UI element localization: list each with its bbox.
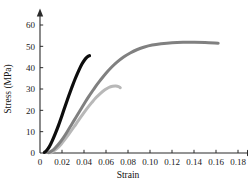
x-tick-label: 0.10 [142, 157, 158, 167]
y-tick-label: 0 [31, 148, 36, 158]
x-tick-label: 0.12 [164, 157, 180, 167]
y-tick-label: 20 [26, 106, 36, 116]
y-tick-label: 50 [26, 42, 36, 52]
x-tick-label: 0.08 [120, 157, 136, 167]
y-tick-label: 40 [26, 63, 36, 73]
x-axis-arrowhead [247, 150, 248, 156]
chart-figure: 00.020.040.060.080.100.120.140.160.18010… [0, 0, 248, 187]
series-layer [44, 42, 218, 152]
y-axis-title: Stress (MPa) [3, 64, 14, 113]
x-tick-label: 0.02 [54, 157, 70, 167]
stress-strain-plot: 00.020.040.060.080.100.120.140.160.18010… [0, 0, 248, 187]
y-tick-label: 60 [26, 20, 36, 30]
x-tick-label: 0.14 [186, 157, 202, 167]
x-tick-label: 0 [38, 157, 43, 167]
y-tick-label: 10 [26, 127, 36, 137]
x-tick-label: 0.18 [230, 157, 246, 167]
y-tick-label: 30 [26, 84, 36, 94]
x-tick-label: 0.04 [76, 157, 92, 167]
x-tick-label: 0.06 [98, 157, 114, 167]
x-axis-title: Strain [117, 170, 140, 180]
y-axis-arrowhead [37, 8, 43, 16]
series-dark-gray-curve [49, 42, 218, 152]
x-tick-label: 0.16 [208, 157, 224, 167]
